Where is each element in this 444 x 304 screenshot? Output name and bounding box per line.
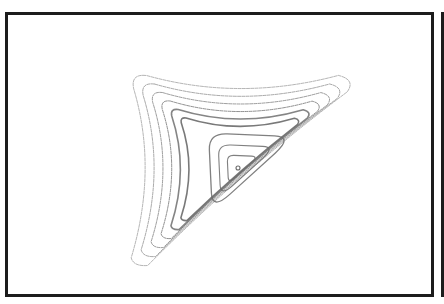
plot-panel-frame [5,12,434,297]
figure-canvas [0,0,444,304]
